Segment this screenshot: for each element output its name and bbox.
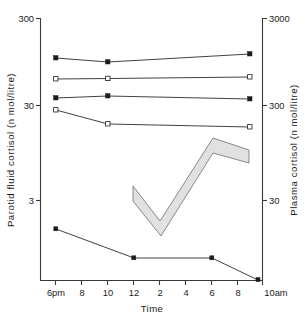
x-axis-ticks: 6pm 8 10 12 2 4 6 8 10am xyxy=(47,281,288,299)
parotid-range-band-group xyxy=(133,138,249,236)
series-parotid-lower-marker xyxy=(54,227,58,231)
series-plasma-2-marker xyxy=(54,77,58,81)
x-tick-label-6: 6 xyxy=(209,288,214,298)
series-parotid-lower-line xyxy=(56,229,258,280)
left-axis-ticks: 300 30 3 xyxy=(18,14,40,206)
left-tick-label-30: 30 xyxy=(24,101,34,111)
x-tick-label-2: 10 xyxy=(103,288,113,298)
x-tick-label-4: 2 xyxy=(157,288,162,298)
figure-container: 300 30 3 3000 300 30 6pm 8 10 xyxy=(0,0,305,318)
right-tick-label-30: 30 xyxy=(269,196,279,206)
series-plasma-2-marker xyxy=(106,76,110,80)
cortisol-chart: 300 30 3 3000 300 30 6pm 8 10 xyxy=(0,0,305,318)
left-tick-label-3: 3 xyxy=(29,196,34,206)
series-plasma-3 xyxy=(54,94,252,101)
series-plasma-4-marker xyxy=(54,108,58,112)
series-plasma-1-marker xyxy=(106,60,110,64)
x-axis-title: Time xyxy=(141,303,164,314)
right-tick-label-3000: 3000 xyxy=(269,14,290,24)
series-plasma-3-marker xyxy=(106,94,110,98)
series-plasma-3-line xyxy=(56,96,250,99)
x-tick-label-1: 8 xyxy=(79,288,84,298)
series-plasma-4-marker xyxy=(106,122,110,126)
x-tick-label-5: 4 xyxy=(183,288,188,298)
right-tick-label-300: 300 xyxy=(269,101,285,111)
x-tick-label-7: 8 xyxy=(235,288,240,298)
series-plasma-4 xyxy=(54,108,252,129)
series-parotid-lower-marker xyxy=(256,278,260,282)
series-plasma-1-marker xyxy=(248,52,252,56)
series-plasma-4-line xyxy=(56,110,250,127)
x-tick-label-8: 10am xyxy=(264,288,288,298)
series-parotid-lower xyxy=(54,227,260,282)
series-parotid-lower-marker xyxy=(132,256,136,260)
left-axis-title: Parotid fluid cortisol (n mol/litre) xyxy=(5,73,16,227)
x-tick-label-0: 6pm xyxy=(47,288,65,298)
series-plasma-2 xyxy=(54,75,252,81)
series-plasma-1 xyxy=(54,52,252,64)
series-plasma-3-marker xyxy=(54,96,58,100)
right-axis-title: Plasma cortisol (n mol/litre) xyxy=(288,84,299,216)
series-plasma-2-marker xyxy=(248,75,252,79)
right-axis-ticks: 3000 300 30 xyxy=(263,14,290,206)
series-plasma-1-line xyxy=(56,54,250,62)
series-plasma-2-line xyxy=(56,77,250,79)
series-plasma-3-marker xyxy=(248,97,252,101)
series-plasma-4-marker xyxy=(248,125,252,129)
series-parotid-lower-marker xyxy=(210,256,214,260)
parotid-range-band xyxy=(133,138,249,236)
x-tick-label-3: 12 xyxy=(129,288,139,298)
series-plasma-1-marker xyxy=(54,56,58,60)
left-tick-label-300: 300 xyxy=(18,14,34,24)
